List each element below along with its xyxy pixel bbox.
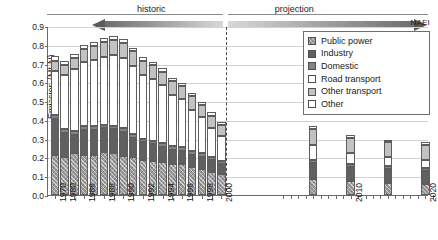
bar-segment <box>309 145 318 160</box>
x-tick-mark <box>343 195 344 199</box>
bar-1994[interactable] <box>158 68 167 195</box>
y-tick-label: 0.7 <box>32 61 44 70</box>
bar-segment <box>188 110 197 151</box>
projection-rule <box>228 14 428 15</box>
bar-segment <box>129 138 138 158</box>
bar-segment <box>80 49 89 62</box>
x-tick-label: 1988 <box>108 183 117 202</box>
x-tick-mark <box>84 195 85 199</box>
legend-swatch-industry <box>308 50 316 58</box>
bar-segment <box>158 85 167 143</box>
bar-segment <box>80 45 89 49</box>
x-tick-mark <box>202 195 203 199</box>
x-tick-mark <box>388 195 389 199</box>
legend-item-road[interactable]: Road transport <box>308 73 425 86</box>
bar-1991[interactable] <box>129 48 138 195</box>
bar-segment <box>51 119 60 155</box>
bar-segment <box>100 57 109 125</box>
bar-1985[interactable] <box>70 54 79 195</box>
bar-1995[interactable] <box>168 78 177 195</box>
bar-1980[interactable] <box>60 61 69 195</box>
x-tick-mark <box>351 195 352 199</box>
y-tick-label: 0.1 <box>32 173 44 182</box>
bar-segment <box>149 62 158 66</box>
bar-1997[interactable] <box>188 93 197 195</box>
legend-label: Other transport <box>321 87 382 96</box>
bar-segment <box>346 164 355 167</box>
bar-segment <box>119 132 128 155</box>
x-tick-mark <box>410 195 411 199</box>
bar-segment <box>217 164 226 174</box>
x-tick-mark <box>143 195 144 199</box>
x-tick-label: 2020 <box>429 183 438 202</box>
y-tick-mark <box>45 196 49 197</box>
bar-1987[interactable] <box>90 42 99 195</box>
bar-segment <box>158 68 167 72</box>
bar-1996[interactable] <box>178 83 187 195</box>
x-tick-label: 1992 <box>147 183 156 202</box>
x-tick-mark <box>328 195 329 199</box>
bar-segment <box>100 38 109 42</box>
x-tick-label: 2010 <box>355 183 364 202</box>
bar-segment <box>80 130 89 154</box>
y-tick-label: 0.0 <box>32 192 44 201</box>
bar-segment <box>60 75 69 129</box>
bar-segment <box>100 125 109 129</box>
bar-segment <box>109 55 118 125</box>
legend-item-domestic[interactable]: Domestic <box>308 60 425 73</box>
bar-segment <box>90 42 99 46</box>
bar-segment <box>346 167 355 181</box>
bar-1993[interactable] <box>149 62 158 195</box>
bar-segment <box>207 116 216 128</box>
bar-segment <box>119 128 128 132</box>
bar-segment <box>100 128 109 151</box>
bar-1992[interactable] <box>139 57 148 195</box>
bar-1970[interactable] <box>51 56 60 195</box>
projection-label: projection <box>272 5 317 14</box>
x-tick-mark <box>395 195 396 199</box>
bar-1989[interactable] <box>109 36 118 195</box>
bar-segment <box>168 81 177 94</box>
bar-segment <box>129 66 138 134</box>
legend-item-othertr[interactable]: Other transport <box>308 85 425 98</box>
bar-segment <box>70 135 79 153</box>
bar-1986[interactable] <box>80 45 89 195</box>
bar-segment <box>60 133 69 156</box>
bar-segment <box>80 126 89 130</box>
x-tick-label: 1980 <box>69 183 78 202</box>
x-tick-mark <box>425 195 426 199</box>
legend-item-public[interactable]: Public power <box>308 35 425 48</box>
y-tick-mark <box>45 121 49 122</box>
bar-segment <box>168 146 177 150</box>
x-tick-mark <box>291 195 292 199</box>
y-tick-label: 0.9 <box>32 23 44 32</box>
bar-segment <box>178 86 187 99</box>
legend-item-other[interactable]: Other <box>308 98 425 111</box>
bar-2005[interactable] <box>309 126 318 195</box>
x-tick-mark <box>313 195 314 199</box>
bar-segment <box>70 131 79 135</box>
bar-segment <box>149 79 158 141</box>
legend[interactable]: Public powerIndustryDomesticRoad transpo… <box>303 31 430 115</box>
bar-segment <box>384 140 393 143</box>
x-tick-label: 1990 <box>127 183 136 202</box>
bar-2015[interactable] <box>384 140 393 195</box>
x-tick-mark <box>403 195 404 199</box>
legend-item-industry[interactable]: Industry <box>308 48 425 61</box>
bar-1998[interactable] <box>198 102 207 196</box>
bar-segment <box>168 78 177 82</box>
bar-segment <box>129 48 138 52</box>
y-tick-label: 0.4 <box>32 117 44 126</box>
bar-segment <box>198 157 207 169</box>
bar-segment <box>60 129 69 133</box>
bar-1988[interactable] <box>100 38 109 195</box>
bar-segment <box>309 160 318 163</box>
bar-1990[interactable] <box>119 39 128 195</box>
bar-segment <box>90 46 99 60</box>
x-tick-label: 1996 <box>186 183 195 202</box>
y-tick-label: 0.8 <box>32 42 44 51</box>
legend-swatch-othertr <box>308 88 316 96</box>
bar-segment <box>100 42 109 57</box>
bar-segment <box>80 62 89 127</box>
x-tick-mark <box>55 195 56 199</box>
